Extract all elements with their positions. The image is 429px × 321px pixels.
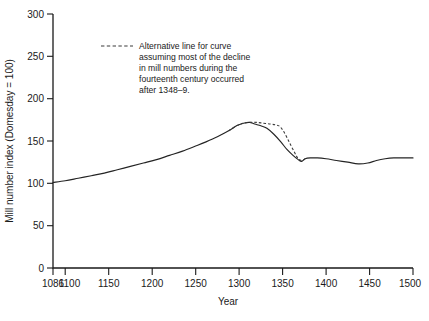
chart-plot-area: 0 50 100 150 200 250 300 1086 1100 1150 <box>0 0 429 321</box>
legend-annotation-line: after 1348–9. <box>139 85 190 95</box>
legend-annotation-line: fourteenth century occurred <box>139 74 244 84</box>
y-tick-label: 250 <box>27 51 44 62</box>
x-axis-ticks <box>53 268 413 275</box>
x-tick-label: 1100 <box>59 278 81 289</box>
legend-annotation-line: Alternative line for curve <box>139 41 231 51</box>
y-tick-label: 300 <box>27 9 44 20</box>
x-tick-label: 1200 <box>141 278 164 289</box>
x-axis-tick-labels: 1086 1100 1150 1200 1250 1300 1350 1400 … <box>42 278 422 289</box>
y-tick-label: 50 <box>33 220 45 231</box>
x-tick-label: 1500 <box>399 278 422 289</box>
x-tick-label: 1350 <box>271 278 294 289</box>
series-line-main <box>53 122 413 182</box>
x-tick-label: 1150 <box>98 278 120 289</box>
legend-annotation-line: assuming most of the decline <box>139 52 251 62</box>
y-tick-label: 200 <box>27 93 44 104</box>
y-tick-label: 0 <box>38 263 44 274</box>
x-tick-label: 1300 <box>228 278 251 289</box>
y-axis-ticks <box>47 14 53 268</box>
chart-legend: Alternative line for curve assuming most… <box>101 41 251 95</box>
y-axis-tick-labels: 0 50 100 150 200 250 300 <box>27 9 44 274</box>
legend-annotation-line: in mill numbers during the <box>139 63 238 73</box>
y-tick-label: 100 <box>27 178 44 189</box>
x-tick-label: 1250 <box>185 278 208 289</box>
chart-figure: 0 50 100 150 200 250 300 1086 1100 1150 <box>0 0 429 321</box>
x-tick-label: 1400 <box>315 278 338 289</box>
x-tick-label: 1450 <box>358 278 381 289</box>
y-tick-label: 150 <box>27 136 44 147</box>
y-axis-title: Mill number index (Domesday = 100) <box>4 59 15 223</box>
x-axis-title: Year <box>218 296 239 307</box>
